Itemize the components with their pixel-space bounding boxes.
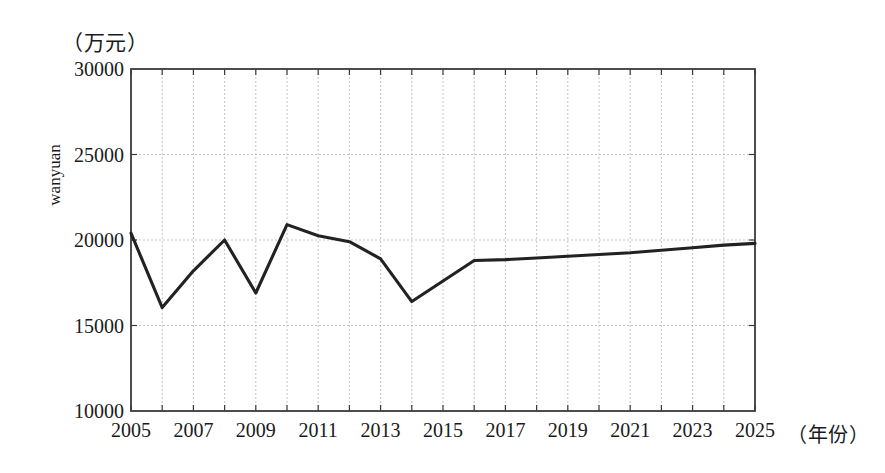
plot-area (0, 0, 885, 473)
line-chart: （万元） wanyuan 1000015000200002500030000 2… (0, 0, 885, 473)
